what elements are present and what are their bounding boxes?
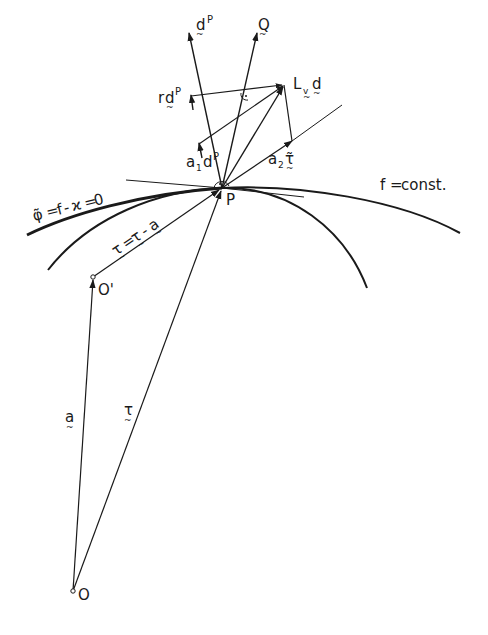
svg-text:~: ~ bbox=[286, 163, 294, 173]
svg-text:φ̃: φ̃ bbox=[31, 205, 45, 225]
curve-f-const bbox=[222, 187, 460, 233]
svg-text:L: L bbox=[293, 75, 302, 93]
label-f-const: f = const. bbox=[380, 176, 446, 194]
label-a1-dP: a 1 d P bbox=[186, 151, 219, 173]
label-Q: Q ~ bbox=[258, 16, 270, 39]
label-a: a ~ bbox=[65, 408, 74, 432]
point-O bbox=[71, 589, 75, 593]
label-O-prime: O' bbox=[98, 281, 114, 299]
svg-text:P: P bbox=[213, 151, 219, 162]
svg-text:~: ~ bbox=[259, 29, 267, 39]
vector-Q bbox=[222, 33, 257, 188]
svg-text:P: P bbox=[207, 14, 213, 25]
label-a2-tau: a 2 τ̃ ~ bbox=[268, 150, 294, 173]
label-Lvd: L v ~ d ~ bbox=[293, 75, 322, 102]
svg-text:~: ~ bbox=[313, 88, 321, 98]
svg-text:const.: const. bbox=[401, 176, 446, 194]
vector-geometry-figure: d P ~ Q ~ r d P ~ L v ~ d ~ a 1 d P a 2 … bbox=[0, 0, 488, 635]
vector-tau bbox=[73, 191, 221, 591]
tangent-extension bbox=[292, 105, 342, 141]
vector-Lvd bbox=[222, 87, 283, 188]
line-rdP-to-L bbox=[191, 85, 282, 96]
svg-text:P: P bbox=[175, 86, 181, 97]
label-O: O bbox=[78, 586, 90, 604]
svg-text:~: ~ bbox=[135, 238, 147, 251]
svg-text:r: r bbox=[158, 89, 165, 107]
svg-text:~: ~ bbox=[196, 29, 204, 39]
svg-text:P: P bbox=[226, 191, 235, 209]
label-tau-prime: τ = τ - a ~ ~ ~ bbox=[108, 215, 165, 264]
svg-text:ϰ: ϰ bbox=[69, 195, 83, 215]
label-P: P bbox=[226, 191, 235, 209]
svg-text:~: ~ bbox=[153, 226, 165, 239]
point-O-prime bbox=[91, 275, 95, 279]
svg-text:~: ~ bbox=[124, 415, 132, 425]
label-tau: τ ~ bbox=[124, 401, 133, 425]
svg-text:d: d bbox=[203, 153, 213, 171]
svg-text:a: a bbox=[186, 153, 195, 171]
svg-text:~: ~ bbox=[166, 102, 174, 112]
svg-text:O: O bbox=[78, 586, 90, 604]
label-dP: d P ~ bbox=[196, 14, 213, 39]
svg-text:1: 1 bbox=[196, 163, 202, 173]
svg-text:~: ~ bbox=[303, 92, 311, 102]
svg-text:f: f bbox=[380, 176, 386, 194]
label-r-dP: r d P ~ bbox=[158, 86, 181, 112]
vector-a1-dP bbox=[199, 143, 202, 158]
svg-text:~: ~ bbox=[66, 422, 74, 432]
svg-text:O': O' bbox=[98, 281, 114, 299]
svg-text:a: a bbox=[268, 150, 277, 168]
vector-r-dP bbox=[191, 95, 193, 110]
line-L-to-tangent bbox=[284, 85, 292, 141]
svg-text:2: 2 bbox=[278, 160, 284, 170]
tangent-line-left bbox=[126, 180, 222, 188]
svg-text:~: ~ bbox=[116, 250, 128, 263]
